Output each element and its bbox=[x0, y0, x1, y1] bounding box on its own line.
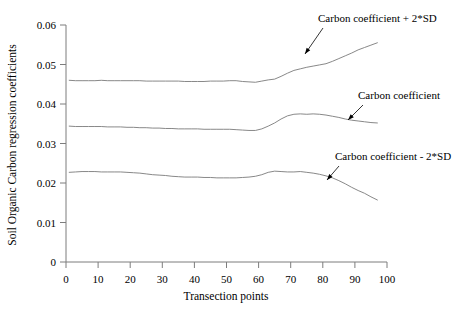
x-axis-tick-labels: 0102030405060708090100 bbox=[63, 273, 396, 285]
annot-lower-label: Carbon coefficient - 2*SD bbox=[335, 150, 451, 162]
x-tick-label: 100 bbox=[379, 273, 396, 285]
annot-upper-label: Carbon coefficient + 2*SD bbox=[318, 12, 437, 24]
x-tick-label: 90 bbox=[349, 273, 361, 285]
y-tick-label: 0.03 bbox=[37, 138, 57, 150]
axes-group bbox=[66, 25, 387, 262]
x-tick-label: 60 bbox=[253, 273, 265, 285]
annot-upper-arrow-head bbox=[305, 48, 310, 54]
x-tick-label: 10 bbox=[93, 273, 105, 285]
y-tick-label: 0.04 bbox=[37, 98, 57, 110]
y-axis-tick-labels: 00.010.020.030.040.050.06 bbox=[37, 19, 57, 268]
annotations-group: Carbon coefficient + 2*SDCarbon coeffici… bbox=[305, 12, 451, 180]
x-tick-label: 0 bbox=[63, 273, 69, 285]
y-tick-label: 0 bbox=[51, 256, 57, 268]
y-tick-label: 0.02 bbox=[37, 177, 56, 189]
series-line-1 bbox=[69, 114, 377, 131]
y-tick-label: 0.05 bbox=[37, 59, 57, 71]
annot-middle: Carbon coefficient bbox=[348, 89, 440, 120]
y-tick-label: 0.06 bbox=[37, 19, 57, 31]
y-axis-title: Soil Organic Carbon regression coefficie… bbox=[6, 44, 19, 246]
y-axis-ticks bbox=[60, 25, 66, 262]
figure-container: 00.010.020.030.040.050.06 01020304050607… bbox=[0, 0, 467, 315]
soil-carbon-regression-chart: 00.010.020.030.040.050.06 01020304050607… bbox=[0, 0, 467, 315]
x-tick-label: 40 bbox=[189, 273, 201, 285]
annot-middle-label: Carbon coefficient bbox=[358, 89, 440, 101]
annot-lower: Carbon coefficient - 2*SD bbox=[327, 150, 451, 180]
x-tick-label: 80 bbox=[317, 273, 329, 285]
x-axis-ticks bbox=[66, 262, 387, 268]
x-axis-title: Transection points bbox=[184, 290, 269, 303]
annot-upper: Carbon coefficient + 2*SD bbox=[305, 12, 437, 54]
x-tick-label: 50 bbox=[221, 273, 233, 285]
y-tick-label: 0.01 bbox=[37, 217, 56, 229]
x-tick-label: 20 bbox=[125, 273, 137, 285]
series-line-0 bbox=[69, 43, 377, 83]
x-tick-label: 30 bbox=[157, 273, 169, 285]
x-tick-label: 70 bbox=[285, 273, 297, 285]
